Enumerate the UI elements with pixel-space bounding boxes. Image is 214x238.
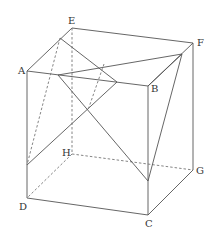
vertex-label-C: C bbox=[145, 219, 153, 229]
vertex-label-B: B bbox=[151, 84, 158, 94]
vertex-label-E: E bbox=[68, 16, 75, 26]
edge-DC bbox=[27, 198, 148, 215]
section-hidden-PT bbox=[27, 38, 60, 165]
edge-AB bbox=[27, 71, 148, 86]
edge-HD bbox=[27, 154, 72, 198]
section-line-QS bbox=[58, 75, 148, 181]
edge-EF bbox=[72, 28, 193, 43]
edge-CG bbox=[148, 170, 193, 215]
vertex-label-D: D bbox=[19, 202, 27, 212]
section-line-PM bbox=[60, 38, 117, 82]
edge-AE bbox=[27, 28, 72, 71]
cube-drawing bbox=[0, 0, 214, 238]
vertex-label-F: F bbox=[197, 38, 204, 48]
cube-diagram: A B C D E F G H bbox=[0, 0, 214, 238]
vertex-label-A: A bbox=[18, 66, 25, 76]
section-line-MT bbox=[27, 82, 117, 165]
section-hidden-inner bbox=[88, 64, 104, 110]
edge-HG bbox=[72, 154, 193, 170]
vertex-label-H: H bbox=[62, 148, 71, 158]
vertex-label-G: G bbox=[196, 166, 204, 176]
section-line-RS bbox=[148, 54, 182, 181]
